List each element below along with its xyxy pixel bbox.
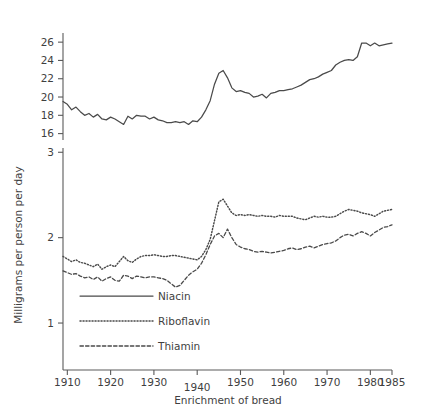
x-tick-label: 1910	[54, 376, 81, 388]
chart-figure: 161820222426123 191019201930194019501960…	[0, 0, 431, 411]
legend-label-thiamin: Thiamin	[157, 340, 200, 352]
y-axis-title: Milligrams per person per day	[12, 166, 24, 323]
y-tick-label: 24	[41, 54, 55, 66]
legend-label-niacin: Niacin	[158, 290, 191, 302]
x-tick-label: 1950	[227, 376, 254, 388]
nutrient-enrichment-line-chart: 161820222426123 191019201930194019501960…	[0, 0, 431, 411]
y-tick-label: 26	[41, 36, 55, 48]
y-tick-label: 1	[47, 317, 54, 329]
y-tick-label: 22	[41, 72, 54, 84]
legend-label-riboflavin: Riboflavin	[158, 315, 210, 327]
x-tick-label: 1960	[270, 376, 297, 388]
x-tick-label: 1920	[97, 376, 124, 388]
y-tick-label: 20	[41, 91, 54, 103]
data-series-group	[63, 43, 392, 287]
y-tick-group: 161820222426123	[41, 36, 63, 329]
x-tick-group: 191019201930194019501960197019801985	[54, 370, 405, 393]
x-axis-title: Enrichment of bread	[174, 394, 282, 406]
y-tick-label: 16	[41, 127, 55, 139]
series-line-niacin	[63, 43, 392, 124]
x-tick-label: 1985	[379, 376, 406, 388]
y-tick-label: 2	[47, 231, 54, 243]
y-tick-label: 18	[41, 109, 54, 121]
legend: NiacinRiboflavinThiamin	[80, 290, 210, 352]
series-line-thiamin	[63, 225, 392, 287]
y-tick-label: 3	[47, 146, 54, 158]
x-tick-label: 1930	[141, 376, 168, 388]
series-line-riboflavin	[63, 199, 392, 269]
x-tick-label: 1940	[184, 381, 211, 393]
x-tick-label: 1970	[314, 376, 341, 388]
